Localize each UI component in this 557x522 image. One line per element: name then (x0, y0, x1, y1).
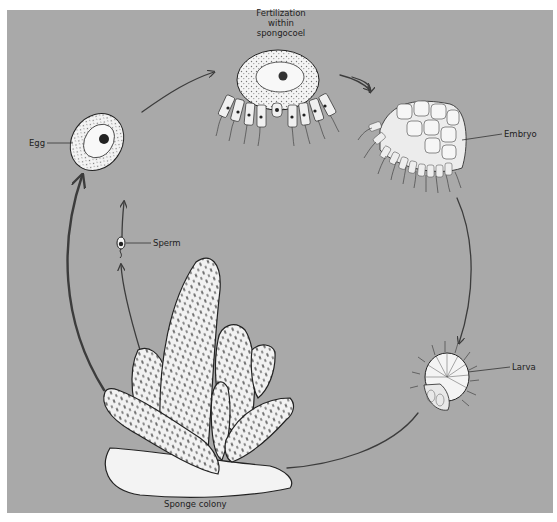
arrow-colony-to-egg (68, 176, 104, 390)
larva-label: Larva (512, 362, 536, 372)
egg-illustration (47, 103, 135, 181)
arrow-larva-to-colony (287, 413, 418, 468)
fertilization-label: Fertilization within spongocoel (246, 8, 316, 38)
egg-label: Egg (29, 138, 45, 148)
arrow-embryo-to-larva (457, 198, 471, 343)
arrow-sperm-up (122, 202, 124, 237)
arrow-egg-to-fertilization (142, 72, 214, 112)
sponge-colony-illustration (104, 258, 294, 497)
embryo-illustration (358, 101, 502, 193)
sponge-colony-label: Sponge colony (164, 499, 227, 509)
larva-illustration (410, 341, 510, 410)
fertilization-illustration (216, 50, 339, 146)
embryo-label: Embryo (504, 129, 537, 139)
life-cycle-diagram (0, 0, 557, 522)
arrow-colony-to-sperm (121, 265, 140, 350)
sperm-illustration (117, 237, 151, 258)
sperm-label: Sperm (153, 238, 181, 248)
